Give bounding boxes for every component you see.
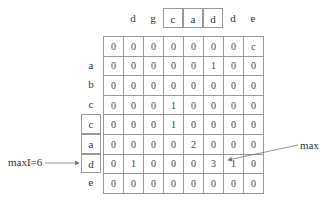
max-label: max <box>300 139 319 151</box>
max-arrow-icon <box>228 145 298 160</box>
arrows <box>0 0 321 204</box>
